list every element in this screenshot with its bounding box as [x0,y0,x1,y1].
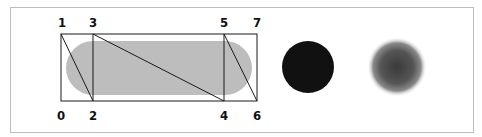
triangle-strip-diagram: 1 3 5 7 0 2 4 6 [0,0,482,137]
aliased-disc [282,41,334,93]
vertex-label-1: 1 [58,15,66,30]
vertex-label-5: 5 [220,15,228,30]
vertex-label-3: 3 [89,15,97,30]
vertex-label-6: 6 [253,108,261,123]
vertex-label-0: 0 [57,108,65,123]
vertex-label-4: 4 [220,108,228,123]
blurred-disc [367,37,427,97]
vertex-label-2: 2 [89,108,97,123]
vertex-label-7: 7 [253,15,261,30]
